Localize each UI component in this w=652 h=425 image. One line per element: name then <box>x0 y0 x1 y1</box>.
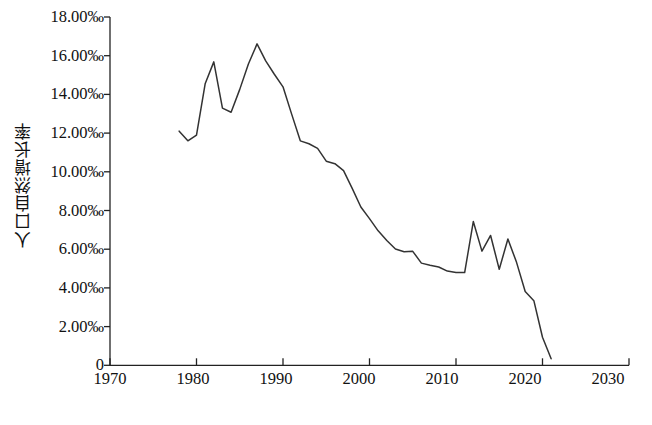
plot-area <box>0 0 652 425</box>
data-line-natural-growth-rate <box>179 44 551 359</box>
chart-container: 人口自然增长率 18.00‰ 16.00‰ 14.00‰ 12.00‰ 10.0… <box>0 0 652 425</box>
y-axis-ticks <box>104 17 110 365</box>
